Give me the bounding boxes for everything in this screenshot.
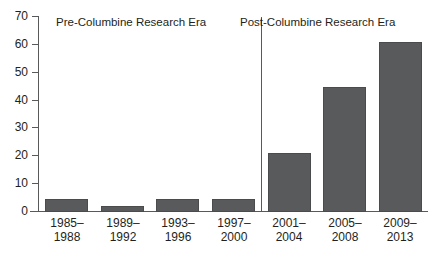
x-axis-label-1993-1996: 1993– 1996 — [150, 216, 206, 244]
bar-2005-2008 — [323, 87, 366, 212]
x-axis-label-1993-1996-line2: 1996 — [150, 230, 206, 244]
x-axis-label-2009-2013-line1: 2009– — [372, 216, 428, 230]
annotation-pre-columbine-era: Pre-Columbine Research Era — [56, 16, 206, 29]
x-axis-label-2005-2008: 2005– 2008 — [317, 216, 373, 244]
bar-1989-1992 — [101, 206, 144, 212]
x-axis-label-1997-2000-line1: 1997– — [206, 216, 262, 230]
bar-chart-figure: PUBLICATIONS PER ERA 0 10 20 30 40 50 60… — [0, 0, 430, 261]
x-axis-label-1985-1988-line2: 1988 — [39, 230, 95, 244]
x-axis-label-2001-2004-line1: 2001– — [261, 216, 317, 230]
x-axis-label-1989-1992-line2: 1992 — [95, 230, 151, 244]
bar-1985-1988 — [45, 199, 88, 212]
x-axis-label-2001-2004: 2001– 2004 — [261, 216, 317, 244]
x-axis-label-1993-1996-line1: 1993– — [150, 216, 206, 230]
x-axis-label-2009-2013: 2009– 2013 — [372, 216, 428, 244]
era-divider-line — [261, 17, 262, 212]
x-axis-label-1985-1988: 1985– 1988 — [39, 216, 95, 244]
x-axis-label-1989-1992-line1: 1989– — [95, 216, 151, 230]
bar-2001-2004 — [268, 153, 311, 212]
x-axis-label-1985-1988-line1: 1985– — [39, 216, 95, 230]
x-axis-label-2005-2008-line2: 2008 — [317, 230, 373, 244]
x-axis-label-2005-2008-line1: 2005– — [317, 216, 373, 230]
annotation-post-columbine-era: Post-Columbine Research Era — [240, 16, 395, 29]
x-axis-label-1989-1992: 1989– 1992 — [95, 216, 151, 244]
bar-2009-2013 — [379, 42, 422, 212]
x-axis-label-2009-2013-line2: 2013 — [372, 230, 428, 244]
bars-layer — [0, 0, 430, 212]
bar-1997-2000 — [212, 199, 255, 212]
x-axis-label-2001-2004-line2: 2004 — [261, 230, 317, 244]
x-axis-label-1997-2000-line2: 2000 — [206, 230, 262, 244]
x-axis-label-1997-2000: 1997– 2000 — [206, 216, 262, 244]
bar-1993-1996 — [156, 199, 199, 212]
